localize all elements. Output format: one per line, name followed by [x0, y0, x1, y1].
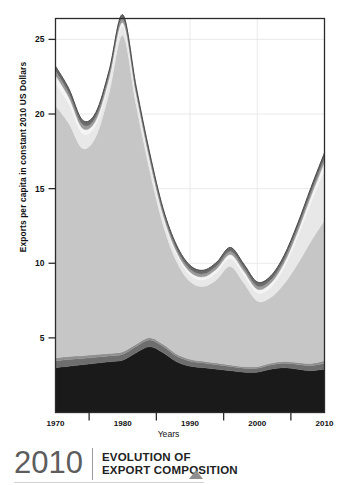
svg-text:15: 15	[35, 184, 45, 194]
svg-text:20: 20	[35, 109, 45, 119]
svg-text:2010: 2010	[316, 419, 334, 428]
chart-page: 510152025 19701980199020002010 Exports p…	[0, 0, 337, 485]
caption-text: EVOLUTION OF EXPORT COMPOSITION	[93, 446, 238, 482]
svg-text:5: 5	[40, 333, 45, 343]
caption-block: 2010 EVOLUTION OF EXPORT COMPOSITION	[14, 446, 238, 482]
caption-line-1: EVOLUTION OF	[102, 451, 238, 465]
caption-line-2: EXPORT COMPOSITION	[102, 464, 238, 478]
caption-underline	[14, 482, 204, 483]
x-axis-label: Years	[0, 429, 337, 439]
svg-text:1980: 1980	[114, 419, 132, 428]
svg-text:2000: 2000	[248, 419, 266, 428]
svg-text:10: 10	[35, 258, 45, 268]
y-axis-ticks: 510152025	[35, 34, 55, 342]
svg-text:25: 25	[35, 34, 45, 44]
caption-year: 2010	[14, 446, 92, 482]
triangle-up-icon	[189, 470, 203, 479]
x-axis-ticks: 19701980199020002010	[47, 413, 334, 428]
svg-text:1990: 1990	[181, 419, 199, 428]
stacked-area-chart: 510152025 19701980199020002010	[0, 0, 337, 440]
y-axis-label: Exports per capita in constant 2010 US D…	[18, 42, 28, 272]
svg-text:1970: 1970	[47, 419, 65, 428]
chart-figure: 510152025 19701980199020002010 Exports p…	[0, 0, 337, 440]
